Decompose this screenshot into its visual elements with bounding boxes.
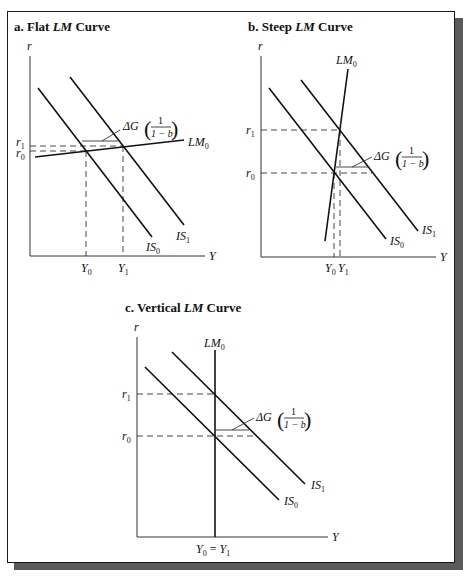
panel-a-y-axis-label: r [27, 39, 32, 53]
panel-b-x-axis-label: Y [440, 250, 448, 264]
panel-c-vertical-lm: c. Vertical LM Curve r Y ΔG ( 1 1 − b ) … [122, 300, 340, 558]
panel-a-is0-label: IS0 [145, 240, 160, 256]
panel-a-is1-label: IS1 [175, 229, 190, 245]
panel-a-y1-label: Y1 [118, 261, 129, 277]
panel-c-is0-label: IS0 [283, 494, 298, 510]
panel-c-is1-label: IS1 [310, 478, 325, 494]
panel-b-axes [261, 56, 436, 257]
panel-c-annotation-leader [232, 418, 254, 430]
panel-c-title: c. Vertical LM Curve [125, 300, 241, 315]
svg-text:1: 1 [158, 115, 163, 126]
svg-text:1: 1 [291, 406, 296, 417]
panel-b-lm0-curve [325, 69, 348, 241]
panel-a-axes [30, 56, 205, 256]
panel-b-lm0-label: LM0 [335, 53, 357, 69]
svg-text:1 − b: 1 − b [402, 158, 424, 169]
panel-a-title: a. Flat LM Curve [14, 19, 110, 34]
svg-text:1 − b: 1 − b [284, 419, 306, 430]
panel-b-r1-label: r1 [246, 123, 255, 139]
svg-text:): ) [304, 407, 311, 432]
panel-c-y-axis-label: r [134, 320, 139, 334]
panel-a-y0-label: Y0 [81, 261, 92, 277]
svg-text:): ) [171, 116, 178, 141]
svg-text:): ) [422, 146, 429, 171]
panel-c-annotation: ΔG ( 1 1 − b ) [255, 406, 311, 432]
svg-text:ΔG: ΔG [255, 410, 272, 424]
panel-b-y1-label: Y1 [338, 261, 349, 277]
panel-b-r0-label: r0 [246, 166, 255, 182]
panel-c-y0-equals-y1-label: Y0 = Y1 [196, 542, 230, 558]
panel-c-x-axis-label: Y [332, 530, 340, 544]
panel-b-title: b. Steep LM Curve [248, 19, 353, 34]
panel-a-flat-lm: a. Flat LM Curve r Y ΔG ( 1 1 − b ) LM0 … [14, 19, 217, 277]
panel-c-lm0-label: LM0 [203, 336, 225, 352]
svg-text:1: 1 [409, 145, 414, 156]
panel-c-axes [137, 337, 328, 537]
panel-a-lm0-curve [35, 140, 184, 157]
svg-text:ΔG: ΔG [373, 149, 390, 163]
svg-text:ΔG: ΔG [122, 119, 139, 133]
panel-b-is1-label: IS1 [421, 223, 436, 239]
panel-c-is0-curve [145, 367, 279, 500]
panel-c-r0-label: r0 [122, 429, 131, 445]
panel-c-r1-label: r1 [122, 387, 131, 403]
panel-b-y0-label: Y0 [325, 261, 336, 277]
panel-a-x-axis-label: Y [209, 249, 217, 263]
panel-b-steep-lm: b. Steep LM Curve r Y ΔG ( 1 1 − b ) LM0… [246, 19, 448, 277]
svg-text:1 − b: 1 − b [151, 128, 173, 139]
panel-a-annotation: ΔG ( 1 1 − b ) [122, 115, 178, 141]
panel-b-y-axis-label: r [258, 39, 263, 53]
islm-diagram: a. Flat LM Curve r Y ΔG ( 1 1 − b ) LM0 … [0, 0, 463, 576]
panel-b-is0-label: IS0 [389, 234, 404, 250]
panel-b-annotation: ΔG ( 1 1 − b ) [373, 145, 429, 171]
panel-a-lm0-label: LM0 [187, 135, 209, 151]
